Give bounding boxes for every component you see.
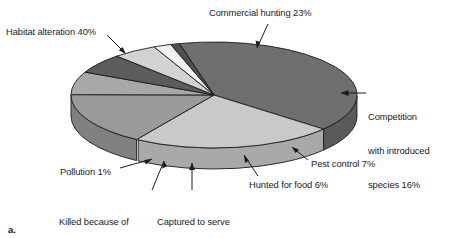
slice-label-commercial-hunting: Commercial hunting 23% <box>209 7 312 18</box>
slice-label-competition: Competition with introduced species 16% <box>368 88 430 213</box>
slice-label-competition-line1: Competition <box>368 111 430 122</box>
leader-line-killed <box>152 161 164 190</box>
slice-label-habitat-alteration-text: Habitat alteration 40% <box>6 26 96 37</box>
slice-label-competition-line3: species 16% <box>368 179 430 190</box>
figure-caption: a. <box>8 224 16 235</box>
slice-label-commercial-hunting-text: Commercial hunting 23% <box>209 7 312 18</box>
slice-label-killed-superstition: Killed because of superstition 2% <box>59 193 129 238</box>
slice-label-hunted-for-food: Hunted for food 6% <box>249 179 328 190</box>
slice-label-captured-as-pets: Captured to serve as pets 5% <box>157 193 230 238</box>
slice-label-pollution: Pollution 1% <box>60 166 111 177</box>
slice-label-captured-line1: Captured to serve <box>157 216 230 227</box>
pie-top-faces <box>71 42 357 148</box>
slice-label-pest-control-text: Pest control 7% <box>311 158 375 169</box>
slice-label-competition-line2: with introduced <box>368 145 430 156</box>
slice-label-hunted-for-food-text: Hunted for food 6% <box>249 179 328 190</box>
slice-label-pollution-text: Pollution 1% <box>60 166 111 177</box>
slice-label-killed-line1: Killed because of <box>59 216 129 227</box>
slice-label-pest-control: Pest control 7% <box>311 158 375 169</box>
slice-label-habitat-alteration: Habitat alteration 40% <box>6 26 96 37</box>
pie-chart-figure: Habitat alteration 40% Commercial huntin… <box>0 0 449 238</box>
